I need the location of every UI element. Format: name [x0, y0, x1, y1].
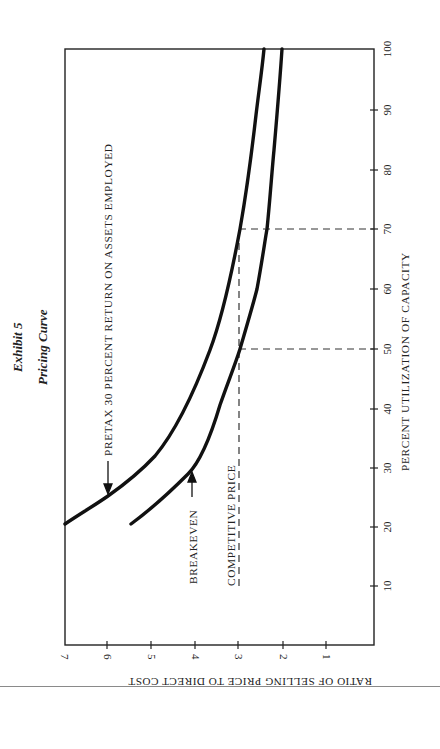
chart-title: Exhibit 5	[10, 322, 25, 373]
x-tick-70: 70	[381, 223, 393, 235]
x-tick-20: 20	[381, 521, 393, 533]
pretax-arrow-icon	[104, 461, 112, 494]
page-rule	[0, 686, 440, 687]
breakeven-curve	[131, 49, 282, 524]
x-tick-40: 40	[381, 403, 393, 415]
y-tick-6: 6	[102, 654, 114, 660]
chart-subtitle: Pricing Curve	[35, 309, 50, 385]
x-tick-10: 10	[381, 580, 393, 592]
x-axis-title: PERCENT UTILIZATION OF CAPACITY	[399, 252, 411, 471]
y-tick-7: 7	[59, 654, 71, 660]
x-tick-30: 30	[381, 462, 393, 474]
y-tick-4: 4	[190, 654, 202, 660]
x-tick-80: 80	[381, 164, 393, 176]
y-axis-tick-labels: 1 2 3 4 5 6 7	[59, 654, 333, 660]
y-tick-1: 1	[321, 654, 333, 660]
y-tick-3: 3	[233, 654, 245, 660]
breakeven-label: BREAKEVEN	[187, 510, 199, 584]
y-tick-5: 5	[146, 654, 158, 660]
pretax-label: PRETAX 30 PERCENT RETURN ON ASSETS EMPLO…	[102, 143, 114, 456]
breakeven-arrow-icon	[188, 472, 196, 497]
competitive-price-label: COMPETITIVE PRICE	[225, 465, 237, 586]
y-tick-2: 2	[278, 654, 290, 660]
pretax-return-curve	[65, 49, 264, 524]
x-tick-100: 100	[381, 40, 393, 57]
pricing-curve-chart: 10 20 30 40 50 60 70 80 90 100 1 2 3 4 5…	[0, 0, 440, 749]
x-tick-90: 90	[381, 104, 393, 116]
x-tick-50: 50	[381, 343, 393, 355]
x-axis-tick-labels: 10 20 30 40 50 60 70 80 90 100	[381, 40, 393, 591]
x-tick-60: 60	[381, 283, 393, 295]
